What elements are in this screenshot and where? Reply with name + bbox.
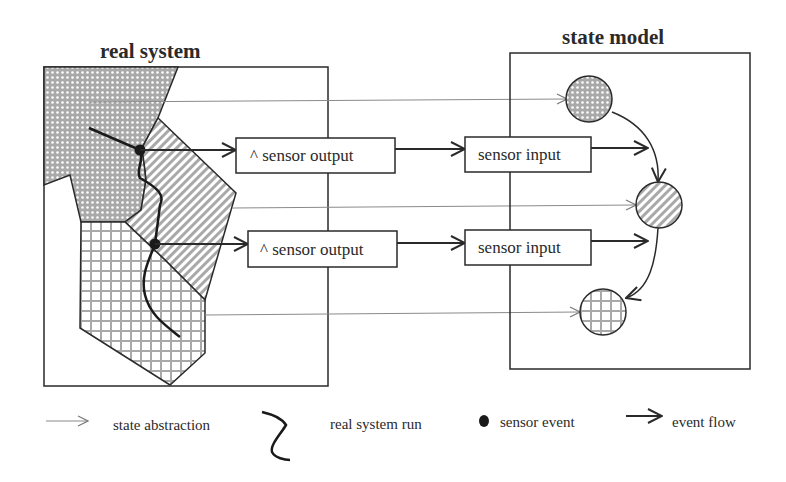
state-node-dotted [566, 76, 612, 122]
legend-label-event-flow: event flow [672, 414, 736, 430]
legend-label-real-system-run: real system run [330, 416, 422, 432]
squiggle-icon [262, 412, 290, 460]
sensor-output-label-1: ^ sensor output [250, 146, 354, 165]
legend: state abstraction real system run sensor… [46, 412, 736, 460]
state-abstraction-arrow-2 [232, 205, 636, 208]
legend-label-sensor-event: sensor event [500, 414, 575, 430]
filled-dot-icon [479, 415, 489, 427]
diagram-canvas: real system state model ^ sensor output … [0, 0, 786, 482]
real-system-title: real system [100, 39, 201, 63]
state-abstraction-arrow-3 [205, 312, 580, 315]
state-node-striped [636, 182, 682, 228]
state-node-grid [580, 289, 626, 335]
sensor-input-label-1: sensor input [478, 145, 561, 164]
sensor-output-label-2: ^ sensor output [260, 240, 364, 259]
sensor-input-label-2: sensor input [478, 238, 561, 257]
state-model-frame [510, 53, 750, 369]
legend-label-state-abstraction: state abstraction [113, 417, 211, 433]
state-transition-2 [626, 228, 658, 298]
state-model-title: state model [562, 25, 664, 49]
